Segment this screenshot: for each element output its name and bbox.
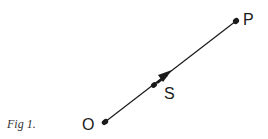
label-o: O [82, 116, 94, 133]
label-p: P [243, 11, 254, 28]
figure-caption: Fig 1. [6, 117, 36, 131]
label-s: S [164, 85, 175, 102]
figure-diagram: O S P Fig 1. [0, 0, 268, 139]
